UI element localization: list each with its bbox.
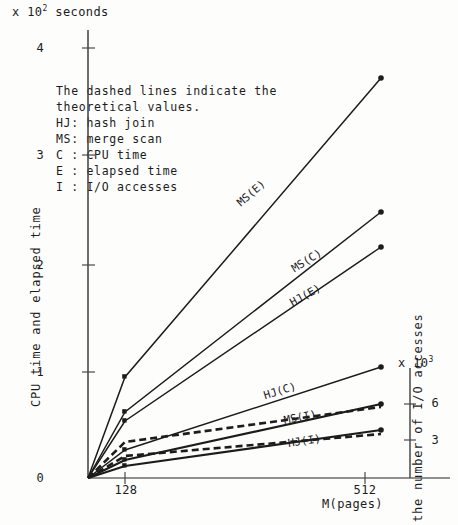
plot-area — [0, 0, 458, 525]
series-line-hj-e — [88, 247, 381, 478]
series-line-ms-e — [88, 78, 381, 478]
series-line-hj-i — [88, 430, 381, 478]
series-line-ms-i-theoretical — [88, 407, 381, 478]
chart-figure: x 102 seconds The dashed lines indicate … — [0, 0, 458, 525]
series-line-hj-c — [88, 367, 381, 478]
